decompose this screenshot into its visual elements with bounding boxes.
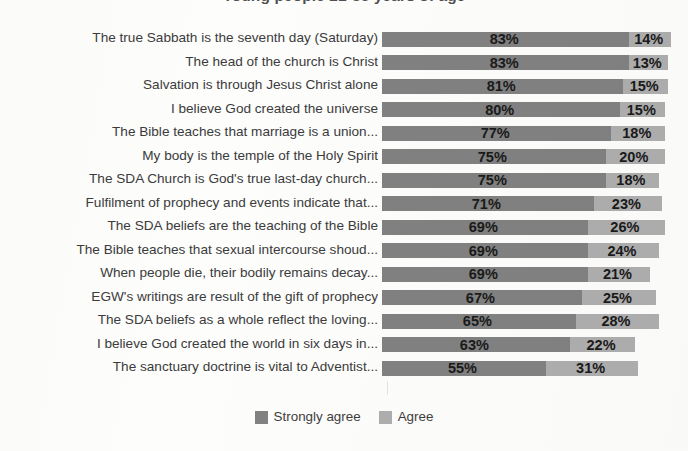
bar-value-strongly-agree: 77% [481,123,510,143]
bar-value-agree: 15% [627,100,656,120]
stacked-bar: 69%24% [382,243,680,258]
stacked-bar: 71%23% [382,196,680,211]
stacked-bar: 69%21% [382,267,680,282]
bar-value-agree: 15% [630,76,659,96]
stacked-bar: 65%28% [382,314,680,329]
bar-value-strongly-agree: 63% [460,335,489,355]
bar-value-agree: 25% [603,288,632,308]
bar-row: Fulfilment of prophecy and events indica… [0,194,688,218]
legend-label: Strongly agree [274,409,361,425]
bar-row: The sanctuary doctrine is vital to Adven… [0,358,688,382]
bar-value-strongly-agree: 67% [466,288,495,308]
stacked-bar: 67%25% [382,290,680,305]
bar-value-strongly-agree: 71% [472,194,501,214]
bar-row: I believe God created the universe80%15% [0,100,688,124]
category-label: The SDA Church is God's true last-day ch… [4,170,378,187]
plot-area: The true Sabbath is the seventh day (Sat… [0,29,688,385]
category-label: EGW's writings are result of the gift of… [4,288,378,305]
stacked-bar: 75%18% [382,173,680,188]
stacked-bar: 81%15% [382,79,680,94]
bar-value-strongly-agree: 80% [485,100,514,120]
bar-value-strongly-agree: 65% [463,311,492,331]
stacked-bar: 63%22% [382,337,680,352]
bar-value-agree: 18% [622,123,651,143]
bar-row: My body is the temple of the Holy Spirit… [0,147,688,171]
bar-value-strongly-agree: 55% [448,358,477,378]
stacked-bar: 80%15% [382,102,680,117]
bar-row: EGW's writings are result of the gift of… [0,288,688,312]
category-label: The head of the church is Christ [4,53,378,70]
bar-row: The SDA beliefs as a whole reflect the l… [0,311,688,335]
bar-row: I believe God created the world in six d… [0,335,688,359]
bar-row: The head of the church is Christ83%13% [0,53,688,77]
bar-value-agree: 14% [634,29,663,49]
bar-row: The Bible teaches that sexual intercours… [0,241,688,265]
bar-value-agree: 24% [607,241,636,261]
legend-swatch-strongly-agree [255,411,268,424]
category-label: I believe God created the world in six d… [4,335,378,352]
stacked-bar: 55%31% [382,361,680,376]
bar-value-agree: 22% [587,335,616,355]
bar-value-agree: 20% [619,147,648,167]
bar-value-strongly-agree: 69% [469,217,498,237]
category-label: The Bible teaches that sexual intercours… [4,241,378,258]
bar-value-agree: 21% [603,264,632,284]
bar-row: The SDA beliefs are the teaching of the … [0,217,688,241]
bar-value-agree: 31% [576,358,605,378]
category-label: I believe God created the universe [4,100,378,117]
stacked-bar: 69%26% [382,220,680,235]
chart-legend: Strongly agreeAgree [0,409,688,425]
category-label: The SDA beliefs as a whole reflect the l… [4,311,378,328]
scan-artifact [387,381,388,395]
category-label: When people die, their bodily remains de… [4,264,378,281]
stacked-bar: 83%14% [382,32,680,47]
bar-chart: Young people 21-35 years of age The true… [0,0,688,451]
category-label: My body is the temple of the Holy Spirit [4,147,378,164]
bar-value-agree: 26% [610,217,639,237]
legend-item: Agree [379,409,434,425]
bar-value-agree: 28% [601,311,630,331]
bar-row: The Bible teaches that marriage is a uni… [0,123,688,147]
bar-value-strongly-agree: 69% [469,241,498,261]
bar-row: The true Sabbath is the seventh day (Sat… [0,29,688,53]
category-label: The Bible teaches that marriage is a uni… [4,123,378,140]
chart-title: Young people 21-35 years of age [0,0,688,7]
bar-row: The SDA Church is God's true last-day ch… [0,170,688,194]
legend-item: Strongly agree [255,409,361,425]
stacked-bar: 83%13% [382,55,680,70]
stacked-bar: 75%20% [382,149,680,164]
category-label: The true Sabbath is the seventh day (Sat… [4,29,378,46]
bar-value-agree: 18% [616,170,645,190]
stacked-bar: 77%18% [382,126,680,141]
bar-value-agree: 23% [612,194,641,214]
bar-value-strongly-agree: 83% [490,53,519,73]
bar-value-strongly-agree: 75% [478,147,507,167]
bar-value-strongly-agree: 83% [490,29,519,49]
bar-value-strongly-agree: 75% [478,170,507,190]
legend-label: Agree [398,409,434,425]
category-label: Fulfilment of prophecy and events indica… [4,194,378,211]
bar-value-strongly-agree: 69% [469,264,498,284]
category-label: The SDA beliefs are the teaching of the … [4,217,378,234]
category-label: Salvation is through Jesus Christ alone [4,76,378,93]
category-label: The sanctuary doctrine is vital to Adven… [4,358,378,375]
bar-row: Salvation is through Jesus Christ alone8… [0,76,688,100]
bar-row: When people die, their bodily remains de… [0,264,688,288]
legend-swatch-agree [379,411,392,424]
bar-value-agree: 13% [633,53,662,73]
bar-value-strongly-agree: 81% [487,76,516,96]
